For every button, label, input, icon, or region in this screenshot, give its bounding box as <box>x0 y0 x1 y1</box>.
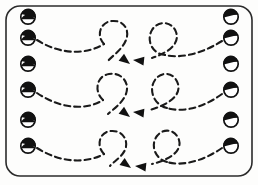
row-2-left-loop <box>97 74 127 114</box>
player-marker-r2[interactable] <box>222 28 238 45</box>
row-2-right-path <box>167 94 222 110</box>
player-marker-l3[interactable] <box>21 54 37 71</box>
player-marker-l4[interactable] <box>21 80 37 97</box>
row-3-right-arrowhead <box>135 162 147 172</box>
row-3-right-loop <box>152 131 180 164</box>
drill-diagram-svg <box>0 0 258 185</box>
drill-row-3 <box>37 131 222 172</box>
player-marker-l6[interactable] <box>21 136 37 153</box>
row-3-right-path <box>167 148 222 164</box>
row-1-left-path <box>37 40 104 52</box>
row-1-right-path <box>165 41 222 56</box>
row-2-right-loop <box>150 74 178 110</box>
movement-paths-layer <box>37 21 222 172</box>
drill-row-1 <box>37 21 222 68</box>
row-3-left-arrowhead <box>120 158 134 172</box>
row-1-right-loop <box>150 23 177 58</box>
row-2-left-arrowhead <box>119 107 133 121</box>
player-marker-r3[interactable] <box>222 54 238 71</box>
row-1-right-arrowhead <box>133 56 145 66</box>
player-marker-r5[interactable] <box>222 110 238 127</box>
player-marker-r4[interactable] <box>222 80 238 97</box>
player-markers-layer <box>21 7 238 153</box>
row-3-left-path <box>37 148 104 160</box>
player-marker-l2[interactable] <box>21 28 37 45</box>
drill-diagram-canvas <box>0 0 258 185</box>
row-2-right-arrowhead <box>133 108 145 118</box>
player-marker-r1[interactable] <box>222 7 238 24</box>
row-2-left-path <box>37 93 103 107</box>
player-marker-r6[interactable] <box>222 136 238 153</box>
player-marker-l1[interactable] <box>21 7 37 24</box>
player-marker-l5[interactable] <box>21 110 37 127</box>
row-1-left-arrowhead <box>119 54 133 68</box>
drill-row-2 <box>37 74 222 121</box>
row-3-left-loop <box>100 131 127 166</box>
